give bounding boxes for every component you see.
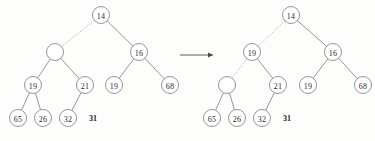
tree-edge-R-empty-to-R-65 [216,93,224,111]
tree-edge-R-14-to-R-19a [258,21,285,46]
tree-node-19[interactable] [25,77,42,94]
tree-edge-L-14-to-L-empty [62,20,95,46]
tree-edge-L-empty-to-L-21 [61,58,80,78]
tree-node-26[interactable] [229,110,246,127]
tree-edge-R-16-to-R-19b [313,59,328,78]
free-label-R-31: 31 [283,114,291,123]
transform-arrow [180,53,213,58]
tree-node-19[interactable] [300,77,317,94]
tree-node-19[interactable] [106,77,123,94]
nodes-layer [10,7,372,127]
tree-node-26[interactable] [35,110,52,127]
tree-diagram-svg [0,0,375,141]
tree-node-16[interactable] [131,44,148,61]
tree-node-68[interactable] [162,77,179,94]
tree-edge-R-19a-to-R-21 [257,59,272,79]
arrow-head-icon [208,53,213,58]
tree-edge-L-21-to-L-32 [72,93,81,111]
tree-node-21[interactable] [270,77,287,94]
tree-node-65[interactable] [204,110,221,127]
tree-node-empty[interactable] [47,44,64,61]
tree-node-14[interactable] [93,7,110,24]
tree-edge-R-16-to-R-68 [339,58,358,78]
free-label-L-31: 31 [89,114,97,123]
tree-node-empty[interactable] [219,77,236,94]
tree-node-32[interactable] [60,110,77,127]
tree-node-19[interactable] [244,44,261,61]
tree-edge-R-21-to-R-32 [266,93,275,111]
diagram-canvas: 1416192119686526323114191621196865263231 [0,0,375,141]
tree-edge-L-19a-to-L-65 [22,93,30,111]
edges-layer [22,20,358,110]
tree-edge-R-19a-to-R-empty [232,59,247,78]
tree-edge-L-14-to-L-16 [107,21,133,46]
tree-node-65[interactable] [10,110,27,127]
tree-node-68[interactable] [355,77,372,94]
tree-node-14[interactable] [283,7,300,24]
tree-edge-L-empty-to-L-19a [38,59,51,78]
tree-node-21[interactable] [77,77,94,94]
tree-edge-L-16-to-L-68 [145,58,164,79]
tree-edge-R-14-to-R-16 [297,21,326,47]
tree-edge-L-16-to-L-19b [119,59,134,78]
tree-node-16[interactable] [325,44,342,61]
tree-edge-L-19a-to-L-26 [35,93,40,110]
tree-node-32[interactable] [254,110,271,127]
tree-edge-R-empty-to-R-26 [229,93,234,110]
